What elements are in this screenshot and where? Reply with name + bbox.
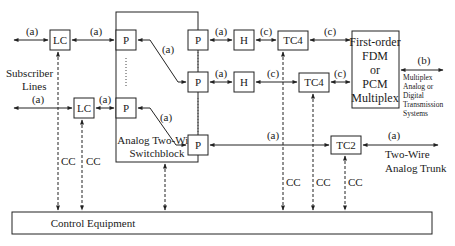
svg-text:(a): (a) [215, 67, 228, 80]
svg-text:Digital: Digital [403, 91, 424, 100]
svg-text:(a): (a) [99, 93, 112, 106]
block-diagram: Analog Two-Wire Switchblock (a) LC (a) S… [0, 0, 455, 246]
svg-text:TC4: TC4 [304, 76, 324, 88]
svg-text:(a): (a) [90, 25, 103, 38]
svg-text:TC4: TC4 [283, 34, 303, 46]
svg-text:(a): (a) [162, 43, 175, 56]
svg-text:CC: CC [348, 176, 363, 188]
svg-text:First-order: First-order [349, 35, 400, 49]
multiplex-block: First-order FDM or PCM Multiplex [349, 31, 400, 108]
svg-text:P: P [195, 34, 201, 46]
svg-text:Multiplex: Multiplex [403, 73, 433, 82]
svg-text:or: or [370, 63, 380, 77]
svg-text:CC: CC [61, 155, 76, 167]
label-a: (a) [26, 25, 39, 38]
svg-text:H: H [240, 34, 248, 46]
svg-text:(c): (c) [260, 25, 273, 38]
svg-text:TC2: TC2 [336, 139, 356, 151]
svg-text:CC: CC [316, 176, 331, 188]
svg-text:CC: CC [286, 176, 301, 188]
svg-text:(a): (a) [388, 129, 401, 142]
switchblock-label-1: Analog Two-Wire [117, 134, 197, 146]
svg-text:P: P [195, 76, 201, 88]
lc2-label: LC [77, 102, 91, 114]
svg-text:(a): (a) [160, 111, 173, 124]
subscriber-lines-label-1: Subscriber [6, 67, 53, 79]
svg-text:(a): (a) [215, 25, 228, 38]
svg-text:(c): (c) [324, 25, 337, 38]
svg-text:Two-Wire: Two-Wire [385, 148, 430, 160]
svg-text:CC: CC [86, 155, 101, 167]
svg-text:Control Equipment: Control Equipment [51, 217, 136, 229]
svg-text:(a): (a) [32, 93, 45, 106]
svg-text:Analog Trunk: Analog Trunk [385, 162, 447, 174]
svg-text:P: P [195, 139, 201, 151]
svg-text:Analog or: Analog or [403, 82, 434, 91]
svg-text:Multiplex: Multiplex [351, 91, 398, 105]
svg-text:(b): (b) [418, 54, 431, 67]
svg-text:FDM: FDM [362, 49, 388, 63]
svg-text:H: H [240, 76, 248, 88]
svg-text:(c): (c) [334, 67, 347, 80]
svg-text:Systems: Systems [403, 109, 428, 118]
switchblock-label-2: Switchblock [130, 147, 185, 159]
svg-text:PCM: PCM [362, 77, 388, 91]
lc1-label: LC [53, 34, 67, 46]
svg-text:P: P [123, 102, 129, 114]
svg-text:(c): (c) [267, 67, 280, 80]
svg-text:Transmission: Transmission [403, 100, 443, 109]
svg-text:(a): (a) [267, 129, 280, 142]
svg-text:P: P [123, 34, 129, 46]
subscriber-lines-label-2: Lines [22, 80, 46, 92]
